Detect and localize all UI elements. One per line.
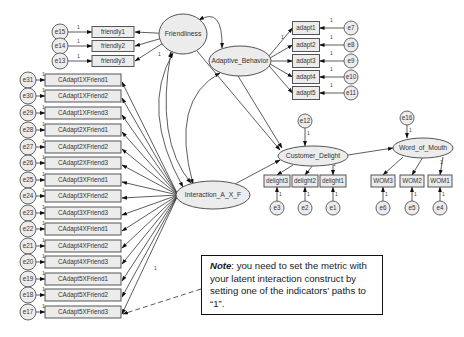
observed-CAdapt3XFriend3[interactable]: CAdapt3XFriend3 xyxy=(45,207,121,219)
error-term-e29[interactable]: e29 xyxy=(20,105,36,121)
latent-variable-label: Adaptive_Behavior xyxy=(211,57,269,65)
fixed-path-label: 1 xyxy=(440,159,443,165)
fixed-path-label: 1 xyxy=(442,191,445,197)
error-term-e1[interactable]: e1 xyxy=(326,201,340,215)
error-term-e27[interactable]: e27 xyxy=(20,139,36,155)
observed-CAdapt4XFriend3[interactable]: CAdapt4XFriend3 xyxy=(45,256,121,268)
error-term-e10[interactable]: e10 xyxy=(344,70,358,84)
observed-variable-label: WOM3 xyxy=(373,177,393,184)
error-term-e21[interactable]: e21 xyxy=(20,238,36,254)
observed-CAdapt2XFriend2[interactable]: CAdapt2XFriend2 xyxy=(45,141,121,153)
error-term-e2[interactable]: e2 xyxy=(298,201,312,215)
error-term-e9[interactable]: e9 xyxy=(344,54,358,68)
loading-path xyxy=(122,195,178,198)
error-term-label: e8 xyxy=(347,41,355,48)
observed-friendly2[interactable]: friendly2 xyxy=(92,41,134,52)
error-term-e8[interactable]: e8 xyxy=(344,38,358,52)
loading-path xyxy=(305,165,313,175)
error-term-label: e1 xyxy=(329,204,337,211)
disturbance-e12[interactable]: e12 xyxy=(298,114,312,128)
error-term-e20[interactable]: e20 xyxy=(20,254,36,270)
error-term-e14[interactable]: e14 xyxy=(52,38,68,54)
fixed-path-label: 1 xyxy=(414,191,417,197)
error-term-label: e30 xyxy=(23,92,34,99)
loading-path xyxy=(135,39,160,46)
observed-CAdapt5XFriend1[interactable]: CAdapt5XFriend1 xyxy=(45,273,121,285)
latent-delight[interactable]: Customer_Delight xyxy=(278,146,348,166)
observed-WOM1[interactable]: WOM1 xyxy=(428,175,452,187)
observed-adapt1[interactable]: adapt1 xyxy=(293,22,320,35)
fixed-path-label: 1 xyxy=(330,17,333,23)
observed-CAdapt2XFriend3[interactable]: CAdapt2XFriend3 xyxy=(45,157,121,169)
observed-CAdapt5XFriend3[interactable]: CAdapt5XFriend3 xyxy=(45,306,121,318)
observed-variable-label: CAdapt3XFriend2 xyxy=(58,192,109,200)
observed-variable-label: WOM1 xyxy=(430,177,450,184)
observed-CAdapt4XFriend1[interactable]: CAdapt4XFriend1 xyxy=(45,223,121,235)
error-term-e17[interactable]: e17 xyxy=(20,304,36,320)
observed-WOM3[interactable]: WOM3 xyxy=(371,175,395,187)
latent-friendliness[interactable]: Friendliness xyxy=(159,14,207,54)
error-term-label: e18 xyxy=(23,291,34,298)
note-text: : you need to set the metric with your l… xyxy=(210,260,367,309)
error-term-e22[interactable]: e22 xyxy=(20,221,36,237)
error-term-e25[interactable]: e25 xyxy=(20,172,36,188)
error-term-e6[interactable]: e6 xyxy=(376,201,390,215)
observed-variable-label: delight3 xyxy=(266,177,289,185)
observed-CAdapt1XFriend3[interactable]: CAdapt1XFriend3 xyxy=(45,107,121,119)
error-term-e18[interactable]: e18 xyxy=(20,287,36,303)
observed-friendly3[interactable]: friendly3 xyxy=(92,56,134,67)
observed-CAdapt1XFriend2[interactable]: CAdapt1XFriend2 xyxy=(45,90,121,102)
error-term-e30[interactable]: e30 xyxy=(20,88,36,104)
observed-delight1[interactable]: delight1 xyxy=(320,175,346,187)
error-term-label: e28 xyxy=(23,126,34,133)
observed-adapt3[interactable]: adapt3 xyxy=(293,55,320,68)
latent-wom[interactable]: Word_of_Mouth xyxy=(393,138,453,158)
error-term-label: e5 xyxy=(408,204,416,211)
latent-adaptive[interactable]: Adaptive_Behavior xyxy=(209,46,271,76)
observed-CAdapt2XFriend1[interactable]: CAdapt2XFriend1 xyxy=(45,124,121,136)
error-term-e31[interactable]: e31 xyxy=(20,72,36,88)
observed-delight3[interactable]: delight3 xyxy=(264,175,290,187)
error-term-label: e19 xyxy=(23,275,34,282)
loading-path xyxy=(277,165,293,175)
observed-friendly1[interactable]: friendly1 xyxy=(92,27,134,38)
fixed-path-label: 1 xyxy=(77,53,80,59)
error-term-label: e27 xyxy=(23,143,34,150)
error-term-e23[interactable]: e23 xyxy=(20,205,36,221)
error-term-e24[interactable]: e24 xyxy=(20,188,36,204)
error-term-e5[interactable]: e5 xyxy=(405,201,419,215)
error-term-e3[interactable]: e3 xyxy=(270,201,284,215)
observed-adapt5[interactable]: adapt5 xyxy=(293,87,320,100)
covariance-interaction-friendliness xyxy=(159,53,183,187)
error-term-e4[interactable]: e4 xyxy=(433,201,447,215)
observed-variable-label: CAdapt2XFriend3 xyxy=(58,159,109,167)
error-term-e13[interactable]: e13 xyxy=(52,53,68,69)
fixed-path-label: 1 xyxy=(77,24,80,30)
observed-WOM2[interactable]: WOM2 xyxy=(400,175,424,187)
observed-variable-label: friendly1 xyxy=(101,28,125,36)
observed-CAdapt5XFriend2[interactable]: CAdapt5XFriend2 xyxy=(45,289,121,301)
observed-variable-label: CAdapt3XFriend3 xyxy=(58,209,109,217)
error-term-e28[interactable]: e28 xyxy=(20,122,36,138)
error-term-e19[interactable]: e19 xyxy=(20,271,36,287)
latent-variable-label: Friendliness xyxy=(165,30,202,37)
note-callout: Note: you need to set the metric with yo… xyxy=(201,255,383,315)
observed-CAdapt4XFriend2[interactable]: CAdapt4XFriend2 xyxy=(45,240,121,252)
latent-variable-label: Word_of_Mouth xyxy=(399,144,447,152)
error-term-e26[interactable]: e26 xyxy=(20,155,36,171)
error-term-label: e4 xyxy=(436,204,444,211)
disturbance-e16[interactable]: e16 xyxy=(400,111,414,125)
observed-CAdapt3XFriend2[interactable]: CAdapt3XFriend2 xyxy=(45,190,121,202)
observed-CAdapt1XFriend1[interactable]: CAdapt1XFriend1 xyxy=(45,74,121,86)
error-term-e11[interactable]: e11 xyxy=(344,86,358,100)
observed-delight2[interactable]: delight2 xyxy=(292,175,318,187)
error-term-label: e15 xyxy=(55,28,66,35)
error-term-label: e2 xyxy=(301,204,309,211)
latent-interaction[interactable]: Interaction_A_X_F xyxy=(176,181,250,209)
error-term-label: e21 xyxy=(23,242,34,249)
observed-adapt4[interactable]: adapt4 xyxy=(293,71,320,84)
observed-variable-label: CAdapt1XFriend3 xyxy=(58,109,109,117)
observed-CAdapt3XFriend1[interactable]: CAdapt3XFriend1 xyxy=(45,174,121,186)
error-term-e7[interactable]: e7 xyxy=(344,21,358,35)
observed-adapt2[interactable]: adapt2 xyxy=(293,39,320,52)
